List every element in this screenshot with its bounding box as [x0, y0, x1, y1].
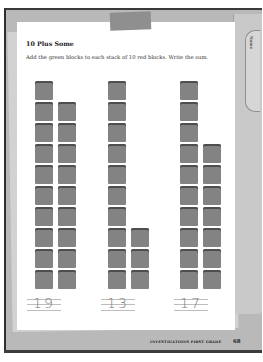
green-block	[131, 270, 149, 289]
page-number: 68	[233, 338, 241, 344]
green-block	[203, 207, 221, 226]
green-block	[203, 270, 221, 289]
green-block	[58, 165, 76, 184]
red-block	[180, 207, 198, 226]
red-block	[108, 207, 126, 226]
answer-1: 19	[27, 295, 61, 311]
red-block	[108, 165, 126, 184]
red-block	[180, 165, 198, 184]
red-block	[35, 81, 53, 100]
green-block	[58, 228, 76, 247]
green-block	[58, 186, 76, 205]
red-block	[180, 102, 198, 121]
answer-box-2[interactable]: 13	[101, 296, 135, 312]
red-block	[108, 270, 126, 289]
folder-bottom-edge	[4, 350, 262, 353]
red-block	[180, 249, 198, 268]
red-block	[35, 270, 53, 289]
answer-box-1[interactable]: 19	[27, 296, 61, 312]
red-block	[108, 186, 126, 205]
footer-series: INVESTIGATIONS FIRST GRADE	[150, 340, 221, 344]
red-block	[35, 186, 53, 205]
red-block	[35, 102, 53, 121]
red-block	[108, 228, 126, 247]
red-block	[108, 249, 126, 268]
red-block	[108, 81, 126, 100]
red-block	[35, 144, 53, 163]
green-block	[203, 186, 221, 205]
answer-box-3[interactable]: 17	[174, 296, 208, 312]
red-block	[180, 270, 198, 289]
red-block	[108, 102, 126, 121]
red-block	[180, 81, 198, 100]
worksheet-instructions: Add the green blocks to each stack of 10…	[26, 54, 226, 61]
red-block	[180, 123, 198, 142]
red-block	[180, 186, 198, 205]
name-tab-label: Name	[249, 36, 254, 49]
green-block	[58, 249, 76, 268]
green-block	[203, 228, 221, 247]
worksheet-title: 10 Plus Some	[26, 40, 74, 47]
green-block	[203, 144, 221, 163]
green-block	[58, 144, 76, 163]
green-block	[58, 207, 76, 226]
red-block	[35, 249, 53, 268]
green-block	[203, 165, 221, 184]
answer-2: 13	[101, 295, 135, 311]
green-block	[58, 102, 76, 121]
red-block	[180, 228, 198, 247]
green-block	[131, 228, 149, 247]
tape	[110, 11, 152, 30]
red-block	[108, 144, 126, 163]
red-block	[35, 228, 53, 247]
green-block	[58, 123, 76, 142]
red-block	[35, 207, 53, 226]
green-block	[58, 270, 76, 289]
red-block	[108, 123, 126, 142]
green-block	[131, 249, 149, 268]
answer-3: 17	[174, 295, 208, 311]
red-block	[180, 144, 198, 163]
green-block	[203, 249, 221, 268]
red-block	[35, 123, 53, 142]
red-block	[35, 165, 53, 184]
